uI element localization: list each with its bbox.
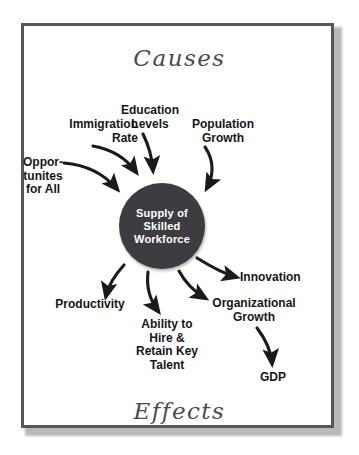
node-opportunities-for-all[interactable]: Oppor- tunites for All (12, 156, 74, 197)
hub-label: Supply of Skilled Workforce (134, 207, 190, 246)
node-organizational-growth[interactable]: Organizational Growth (206, 297, 302, 324)
heading-effects: Effects (0, 398, 359, 424)
node-ability-to-hire-retain-key-talent[interactable]: Ability to Hire & Retain Key Talent (128, 318, 206, 372)
node-gdp[interactable]: GDP (250, 371, 296, 385)
node-population-growth[interactable]: Population Growth (186, 118, 260, 145)
node-education-levels[interactable]: Education Levels (114, 104, 186, 131)
heading-causes: Causes (0, 45, 359, 71)
diagram-canvas: Causes Effects (0, 0, 359, 455)
hub-node[interactable]: Supply of Skilled Workforce (119, 183, 205, 269)
node-productivity[interactable]: Productivity (48, 298, 132, 312)
node-innovation[interactable]: Innovation (240, 271, 320, 285)
